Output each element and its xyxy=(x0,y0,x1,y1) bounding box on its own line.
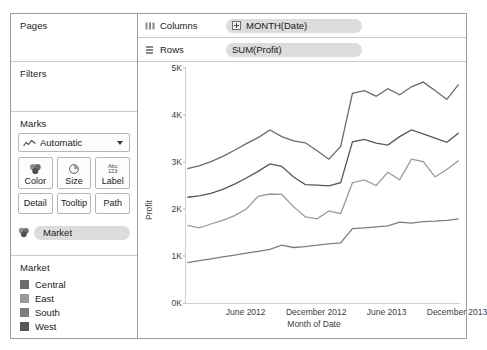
marks-detail-button[interactable]: Detail xyxy=(18,193,53,214)
y-tick-label: 3K xyxy=(152,157,182,167)
marks-card-body: Automatic Color xyxy=(11,132,137,218)
marks-detail-label: Detail xyxy=(24,198,47,208)
rows-pill-label: SUM(Profit) xyxy=(232,44,282,55)
marks-color-button[interactable]: Color xyxy=(18,157,53,189)
legend-swatch xyxy=(20,280,29,289)
pages-card-title: Pages xyxy=(11,19,137,34)
marks-card: Marks Automatic xyxy=(11,112,137,256)
marks-tooltip-label: Tooltip xyxy=(61,198,87,208)
rows-shelf[interactable]: Rows SUM(Profit) xyxy=(138,38,466,62)
legend-item-central[interactable]: Central xyxy=(20,277,137,291)
marks-color-label: Color xyxy=(25,176,47,186)
size-pie-icon xyxy=(68,162,80,176)
marks-encoding-row: Market xyxy=(11,218,137,245)
mark-type-label: Automatic xyxy=(40,137,117,148)
plot-area[interactable] xyxy=(185,68,460,303)
legend-item-label: East xyxy=(35,293,54,304)
legend-item-label: South xyxy=(35,307,60,318)
legend-title: Market xyxy=(11,261,137,276)
line-series-east xyxy=(187,219,458,263)
legend-swatch xyxy=(20,308,29,317)
x-tick-label: June 2013 xyxy=(367,307,407,317)
marks-market-pill[interactable]: Market xyxy=(34,226,130,240)
worksheet-panel: Columns MONTH(Date) Rows SUM(Profit) Pro… xyxy=(138,14,466,338)
columns-pill-month-date[interactable]: MONTH(Date) xyxy=(226,19,362,33)
marks-path-label: Path xyxy=(103,198,122,208)
x-tick-label: June 2012 xyxy=(226,307,266,317)
filters-card[interactable]: Filters xyxy=(11,62,137,112)
chart-viz-area[interactable]: Profit 0K1K2K3K4K5K June 2012December 20… xyxy=(138,62,466,338)
line-series-group xyxy=(186,68,460,303)
marks-tooltip-button[interactable]: Tooltip xyxy=(57,193,92,214)
columns-pill-label: MONTH(Date) xyxy=(246,20,307,31)
y-tick-label: 5K xyxy=(152,63,182,73)
line-series-south xyxy=(187,159,458,228)
rows-icon xyxy=(145,41,155,59)
columns-shelf[interactable]: Columns MONTH(Date) xyxy=(138,14,466,38)
legend-items: Central East South West xyxy=(11,276,137,333)
market-legend-card: Market Central East South West xyxy=(11,256,137,338)
legend-item-label: Central xyxy=(35,279,66,290)
marks-size-button[interactable]: Size xyxy=(57,157,92,189)
x-tick-label: December 2012 xyxy=(286,307,346,317)
y-tick-label: 4K xyxy=(152,110,182,120)
marks-buttons-row-1: Color Size Abc123 xyxy=(18,157,130,189)
x-tick-label: December 2013 xyxy=(427,307,487,317)
legend-item-label: West xyxy=(35,321,56,332)
line-series-west xyxy=(187,130,458,197)
y-tick-label: 2K xyxy=(152,204,182,214)
line-chart-icon xyxy=(23,134,36,152)
left-panel: Pages Filters Marks Automatic xyxy=(11,14,138,338)
legend-item-east[interactable]: East xyxy=(20,291,137,305)
y-tick-label: 0K xyxy=(152,298,182,308)
marks-buttons-row-2: Detail Tooltip Path xyxy=(18,193,130,214)
legend-item-south[interactable]: South xyxy=(20,305,137,319)
marks-label-button[interactable]: Abc123 Label xyxy=(95,157,130,189)
marks-label-label: Label xyxy=(102,176,124,186)
pages-card[interactable]: Pages xyxy=(11,14,137,62)
filters-card-title: Filters xyxy=(11,67,137,82)
line-series-central xyxy=(187,82,458,168)
abc-123-icon: Abc123 xyxy=(108,162,117,176)
color-palette-icon xyxy=(29,162,42,176)
x-axis-line xyxy=(185,303,460,304)
rows-shelf-label: Rows xyxy=(160,44,226,55)
columns-shelf-label: Columns xyxy=(160,20,226,31)
chevron-down-icon[interactable] xyxy=(117,141,123,145)
legend-swatch xyxy=(20,322,29,331)
legend-item-west[interactable]: West xyxy=(20,319,137,333)
marks-size-label: Size xyxy=(65,176,83,186)
marks-card-title: Marks xyxy=(11,117,137,132)
rows-pill-sum-profit[interactable]: SUM(Profit) xyxy=(226,43,362,57)
columns-icon xyxy=(145,17,155,35)
y-axis-ticks: 0K1K2K3K4K5K xyxy=(150,62,182,338)
y-tick-label: 1K xyxy=(152,251,182,261)
plus-expander-icon[interactable] xyxy=(232,21,241,30)
tableau-worksheet: Pages Filters Marks Automatic xyxy=(10,13,467,339)
x-axis-title: Month of Date xyxy=(287,319,340,329)
mark-type-dropdown[interactable]: Automatic xyxy=(18,133,130,152)
marks-path-button[interactable]: Path xyxy=(95,193,130,214)
legend-swatch xyxy=(20,294,29,303)
color-palette-icon xyxy=(18,224,30,242)
